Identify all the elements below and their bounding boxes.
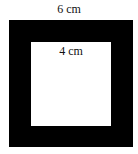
inner-square-side-label: 4 cm [31,44,111,59]
outer-square-side-label: 6 cm [0,2,138,17]
